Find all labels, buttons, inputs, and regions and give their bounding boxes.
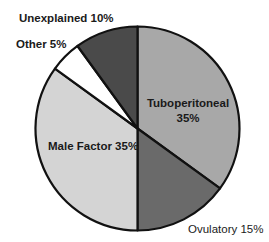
label-unexplained: Unexplained 10% xyxy=(19,12,114,24)
label-male-factor: Male Factor 35% xyxy=(48,140,138,152)
pie-slices xyxy=(36,27,240,231)
label-tuboperitoneal-pct: 35% xyxy=(176,112,199,124)
label-ovulatory: Ovulatory 15% xyxy=(188,223,263,235)
label-other: Other 5% xyxy=(16,38,67,50)
pie-chart: Tuboperitoneal 35% Ovulatory 15% Male Fa… xyxy=(0,0,269,242)
label-tuboperitoneal: Tuboperitoneal xyxy=(147,97,229,109)
